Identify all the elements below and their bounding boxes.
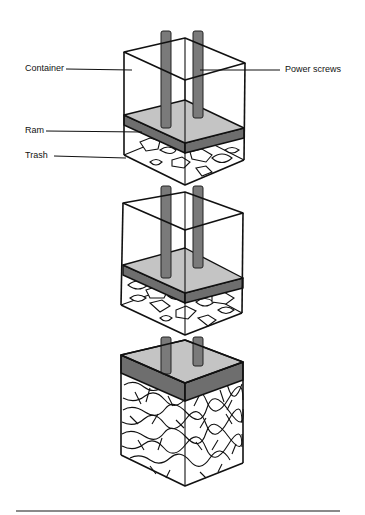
power-screws-label: Power screws <box>285 65 341 74</box>
container-leader-line <box>66 69 132 70</box>
ram-leader-line <box>46 131 142 132</box>
diagram-canvas: .o { fill: none; stroke: #111; stroke-wi… <box>0 0 365 515</box>
ram-label: Ram <box>25 126 44 135</box>
trash-leader-line <box>54 156 126 158</box>
trash-label: Trash <box>25 151 48 160</box>
compactor-diagram: .o { fill: none; stroke: #111; stroke-wi… <box>0 0 365 515</box>
bottom-rule <box>16 510 340 512</box>
container-label: Container <box>25 64 64 73</box>
container-stage-2 <box>121 186 243 335</box>
container-stage-1 <box>124 31 245 185</box>
container-stage-3 <box>121 337 243 486</box>
